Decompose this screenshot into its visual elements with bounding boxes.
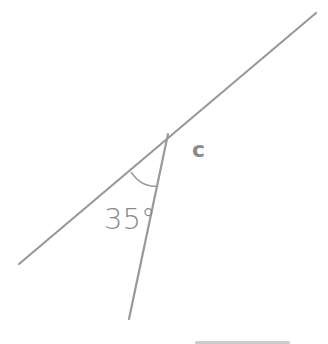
vertex-label: c (192, 137, 205, 162)
angle-label: 35° (104, 202, 155, 236)
angle-diagram: 35° c (0, 0, 328, 344)
angle-arc (131, 172, 158, 186)
